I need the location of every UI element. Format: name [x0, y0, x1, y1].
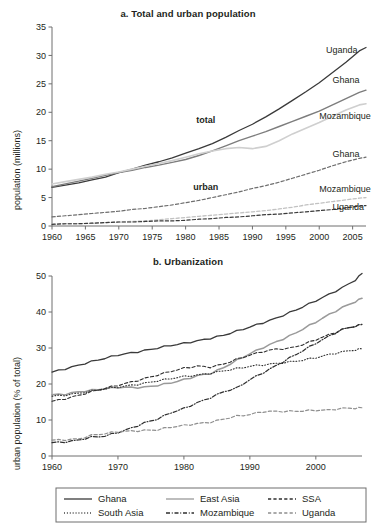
panel-a-x-tick-label: 1975 [142, 232, 162, 242]
panel-total-and-urban-population: a. Total and urban population population… [0, 0, 376, 252]
panel-a-annotation-ghana-total: Ghana [333, 75, 360, 85]
panel-a-y-tick-label: 35 [36, 22, 46, 32]
panel-a-annotation-uganda-total: Uganda [326, 45, 358, 55]
panel-b-y-tick-label: 40 [36, 307, 46, 317]
panel-a-y-tick-label: 5 [41, 193, 46, 203]
panel-a-annotation-mozambique-urban: Mozambique [319, 184, 371, 194]
panel-a-annotation-uganda-urban: Uganda [333, 202, 365, 212]
panel-a-x-tick-label: 1960 [42, 232, 62, 242]
panel-b-x-tick-label: 2000 [306, 462, 326, 472]
panel-a-y-tick-label: 20 [36, 107, 46, 117]
panel-b-y-tick-label: 20 [36, 379, 46, 389]
series-line-uganda [52, 407, 362, 440]
panel-a-x-tick-label: 1980 [176, 232, 196, 242]
figure-root: a. Total and urban population population… [0, 0, 376, 525]
panel-urbanization: b. Urbanization urban population (% of t… [0, 252, 376, 525]
series-line-ghana-total [52, 90, 366, 187]
panel-a-annotation-urban: urban [193, 182, 218, 192]
panel-a-annotation-total: total [196, 115, 215, 125]
panel-a-x-tick-label: 1985 [209, 232, 229, 242]
panel-b-y-tick-label: 50 [36, 271, 46, 281]
panel-a-annotation-mozambique-total: Mozambique [319, 111, 371, 121]
panel-a-x-tick-label: 1990 [242, 232, 262, 242]
panel-a-y-tick-label: 15 [36, 136, 46, 146]
series-line-mozambique [52, 325, 362, 443]
panel-a-axes [52, 27, 366, 226]
panel-a-x-tick-label: 1995 [276, 232, 296, 242]
panel-a-y-tick-label: 25 [36, 79, 46, 89]
panel-a-plot: 0510152025303519601965197019751980198519… [0, 0, 376, 252]
series-line-ssa [52, 324, 362, 401]
panel-a-x-tick-label: 2000 [309, 232, 329, 242]
panel-b-y-tick-label: 10 [36, 415, 46, 425]
panel-a-y-tick-label: 10 [36, 164, 46, 174]
panel-b-x-tick-label: 1980 [174, 462, 194, 472]
panel-a-x-tick-label: 1970 [109, 232, 129, 242]
panel-a-y-tick-label: 0 [41, 221, 46, 231]
panel-b-y-tick-label: 30 [36, 343, 46, 353]
panel-b-axes [52, 276, 362, 456]
panel-b-x-tick-label: 1970 [108, 462, 128, 472]
panel-b-x-tick-label: 1990 [240, 462, 260, 472]
panel-b-plot: 0102030405019601970198019902000 [0, 252, 376, 525]
panel-a-x-tick-label: 2005 [343, 232, 363, 242]
series-line-east-asia [52, 298, 362, 395]
panel-a-y-tick-label: 30 [36, 51, 46, 61]
panel-a-x-tick-label: 1965 [75, 232, 95, 242]
panel-a-annotation-ghana-urban: Ghana [333, 149, 360, 159]
panel-b-y-tick-label: 0 [41, 451, 46, 461]
panel-b-x-tick-label: 1960 [42, 462, 62, 472]
